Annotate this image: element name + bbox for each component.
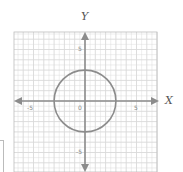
axes	[14, 32, 159, 172]
y-tick-label-neg5: -5	[76, 148, 82, 155]
origin-label: 0	[78, 104, 82, 111]
x-tick-label-neg5: -5	[27, 104, 33, 111]
x-axis-title: X	[165, 94, 173, 107]
x-tick-label-5: 5	[134, 104, 138, 111]
y-axis-title: Y	[81, 10, 88, 23]
coordinate-plane	[0, 0, 183, 172]
cropped-edge-fragment	[0, 140, 4, 172]
y-tick-label-5: 5	[78, 45, 82, 52]
